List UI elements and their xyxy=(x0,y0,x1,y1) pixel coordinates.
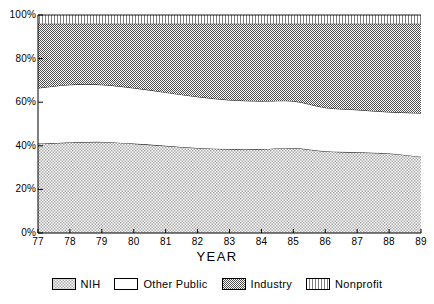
y-tick-label: 60% xyxy=(2,97,36,107)
solid-white-swatch xyxy=(114,278,138,290)
y-tick-label: 80% xyxy=(2,54,36,64)
legend-label: Nonprofit xyxy=(335,278,382,290)
x-tick-label: 84 xyxy=(249,236,273,248)
x-tick-label: 85 xyxy=(281,236,305,248)
y-axis-tick-labels: 0%20%40%60%80%100% xyxy=(0,0,36,260)
y-tick-label: 100% xyxy=(2,10,36,20)
legend-label: NIH xyxy=(81,278,101,290)
plot-svg xyxy=(0,0,434,260)
x-tick-label: 82 xyxy=(186,236,210,248)
legend-label: Industry xyxy=(251,278,293,290)
x-tick-label: 83 xyxy=(218,236,242,248)
x-tick-label: 80 xyxy=(122,236,146,248)
area-band-nonprofit xyxy=(38,15,421,24)
legend-item[interactable]: Other Public xyxy=(114,278,207,290)
x-tick-label: 87 xyxy=(345,236,369,248)
x-tick-label: 77 xyxy=(26,236,50,248)
legend-label: Other Public xyxy=(143,278,207,290)
area-band-nih xyxy=(38,142,421,233)
x-tick-label: 86 xyxy=(313,236,337,248)
light-cross-hatch-swatch xyxy=(52,278,76,290)
series-layer xyxy=(38,15,421,233)
plot-area xyxy=(0,0,434,260)
y-tick-label: 40% xyxy=(2,141,36,151)
stacked-area-chart: 0%20%40%60%80%100% 777879808182838485868… xyxy=(0,0,434,304)
x-axis-title: YEAR xyxy=(0,249,434,264)
x-tick-label: 79 xyxy=(90,236,114,248)
legend-item[interactable]: Industry xyxy=(222,278,293,290)
x-tick-label: 81 xyxy=(154,236,178,248)
x-tick-label: 89 xyxy=(409,236,433,248)
y-tick-label: 20% xyxy=(2,184,36,194)
dark-cross-hatch-swatch xyxy=(222,278,246,290)
chart-legend: NIH xyxy=(0,278,434,290)
x-tick-label: 88 xyxy=(377,236,401,248)
legend-item[interactable]: Nonprofit xyxy=(306,278,382,290)
x-tick-label: 78 xyxy=(58,236,82,248)
vertical-lines-swatch xyxy=(306,278,330,290)
legend-item[interactable]: NIH xyxy=(52,278,101,290)
